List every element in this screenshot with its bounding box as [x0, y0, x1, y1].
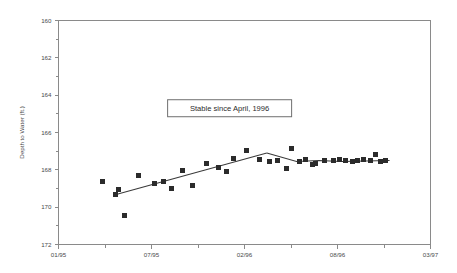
- data-point-marker: [350, 159, 355, 164]
- data-point-marker: [297, 159, 302, 164]
- y-tick-label: 168: [41, 166, 52, 173]
- data-point-marker: [303, 157, 308, 162]
- x-tick-label: 03/97: [423, 251, 439, 258]
- y-tick-label: 160: [41, 17, 52, 24]
- data-point-marker: [337, 157, 342, 162]
- x-tick-label: 07/95: [144, 251, 160, 258]
- data-point-marker: [257, 157, 262, 162]
- data-point-marker: [244, 148, 249, 153]
- x-tick-label: 01/95: [51, 251, 67, 258]
- data-point-marker: [355, 158, 360, 163]
- data-point-marker: [383, 158, 388, 163]
- data-point-marker: [313, 161, 318, 166]
- data-point-marker: [322, 158, 327, 163]
- y-axis-title: Depth to Water (ft.): [18, 106, 25, 158]
- data-point-marker: [331, 158, 336, 163]
- y-tick-label: 166: [41, 129, 52, 136]
- x-tick-label: 08/96: [330, 251, 346, 258]
- chart-annotation: Stable since April, 1996: [168, 100, 292, 117]
- y-tick-label: 172: [41, 241, 52, 248]
- water-level-chart: 160162164166168170172 01/9507/9502/9608/…: [0, 0, 457, 273]
- chart-background: [0, 0, 457, 273]
- data-point-marker: [343, 158, 348, 163]
- data-point-marker: [100, 179, 105, 184]
- data-point-marker: [161, 179, 166, 184]
- y-tick-label: 170: [41, 203, 52, 210]
- data-point-marker: [368, 158, 373, 163]
- data-point-marker: [361, 157, 366, 162]
- data-point-marker: [136, 173, 141, 178]
- data-point-marker: [289, 146, 294, 151]
- data-point-marker: [122, 213, 127, 218]
- data-point-marker: [373, 152, 378, 157]
- y-tick-label: 162: [41, 54, 52, 61]
- data-point-marker: [190, 183, 195, 188]
- data-point-marker: [152, 181, 157, 186]
- data-point-marker: [204, 161, 209, 166]
- data-point-marker: [169, 186, 174, 191]
- data-point-marker: [231, 156, 236, 161]
- data-point-marker: [284, 166, 289, 171]
- x-tick-label: 02/96: [237, 251, 253, 258]
- data-point-marker: [116, 187, 121, 192]
- annotation-text: Stable since April, 1996: [190, 104, 269, 113]
- data-point-marker: [216, 165, 221, 170]
- chart-canvas: 160162164166168170172 01/9507/9502/9608/…: [0, 0, 457, 273]
- y-tick-label: 164: [41, 91, 52, 98]
- data-point-marker: [378, 159, 383, 164]
- data-point-marker: [113, 192, 118, 197]
- data-point-marker: [224, 169, 229, 174]
- data-point-marker: [180, 168, 185, 173]
- data-point-marker: [275, 158, 280, 163]
- data-point-marker: [267, 159, 272, 164]
